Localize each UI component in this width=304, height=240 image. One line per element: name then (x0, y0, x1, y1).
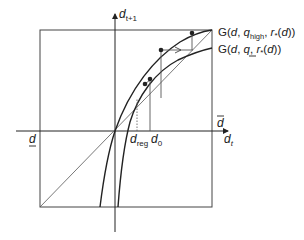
point-2 (148, 77, 153, 82)
curve-high-label: G(d, qhigh, r*(d)) (218, 26, 296, 41)
point-1 (143, 82, 148, 87)
curve-high (100, 30, 212, 207)
y-axis-label: dt+1 (119, 7, 138, 23)
d0-label: d0 (151, 132, 163, 148)
d-low-label: d (29, 132, 36, 146)
point-3 (159, 48, 164, 53)
curve-low-label: G(d, q, r*(d)) (218, 43, 281, 57)
point-4 (190, 31, 195, 36)
d-reg-label: dreg (130, 132, 148, 148)
debt-dynamics-diagram: dt+1 dt d d dreg d0 G(d, qhigh, r*(d)) G… (0, 0, 304, 240)
x-axis-label: dt (224, 132, 234, 148)
d-high-label: d (217, 116, 224, 130)
curve-low (118, 48, 212, 207)
